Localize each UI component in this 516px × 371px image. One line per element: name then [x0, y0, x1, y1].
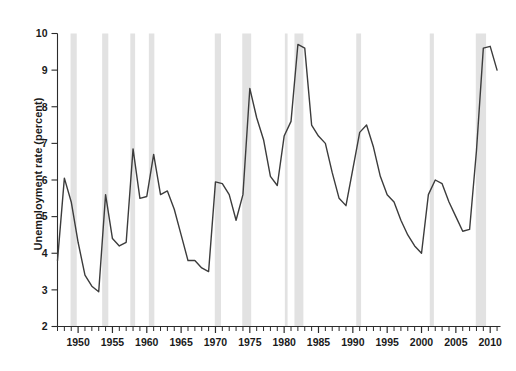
- y-tick-label: 5: [42, 210, 48, 222]
- x-tick-label: 1975: [238, 336, 262, 348]
- x-tick-label: 1960: [135, 336, 159, 348]
- x-tick-label: 2010: [479, 336, 503, 348]
- x-tick-label: 1970: [204, 336, 228, 348]
- x-tick-label: 2000: [410, 336, 434, 348]
- x-tick-label: 1965: [169, 336, 193, 348]
- x-tick-label: 1995: [375, 336, 399, 348]
- y-tick-label: 7: [42, 137, 48, 149]
- axes-group: [58, 34, 501, 327]
- y-tick-label: 10: [36, 27, 48, 39]
- recession-band: [71, 34, 77, 327]
- recession-band: [215, 34, 221, 327]
- unemployment-rate-chart: Unemployment rate (percent) 2345678910 1…: [0, 0, 516, 371]
- recession-band: [356, 34, 361, 327]
- recession-band: [294, 34, 303, 327]
- y-tick-label: 2: [42, 320, 48, 332]
- x-tick-label: 1950: [66, 336, 90, 348]
- recession-band: [430, 34, 434, 327]
- x-tick-label: 1980: [272, 336, 296, 348]
- plot-area: 2345678910 19501955196019651970197519801…: [0, 0, 516, 371]
- x-tick-label: 2005: [444, 336, 468, 348]
- y-tick-label: 3: [42, 284, 48, 296]
- x-tick-labels-group: 1950195519601965197019751980198519901995…: [66, 336, 502, 348]
- x-tick-label: 1955: [101, 336, 125, 348]
- y-tick-label: 6: [42, 174, 48, 186]
- recession-band: [285, 34, 288, 327]
- y-tick-labels-group: 2345678910: [36, 27, 48, 332]
- y-tick-label: 4: [42, 247, 48, 259]
- y-tick-label: 9: [42, 64, 48, 76]
- y-tick-label: 8: [42, 101, 48, 113]
- x-tick-label: 1985: [307, 336, 331, 348]
- recession-band: [102, 34, 108, 327]
- x-tick-label: 1990: [341, 336, 365, 348]
